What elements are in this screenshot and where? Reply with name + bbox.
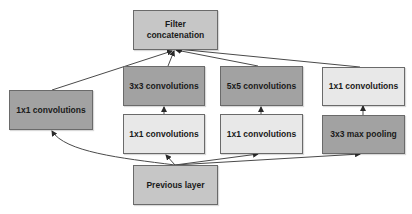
edge-prev-to-maxpool	[175, 154, 360, 165]
conv-1x1-reduce-5x5-node: 1x1 convolutions	[220, 114, 303, 154]
conv-1x1-reduce-5x5-label: 1x1 convolutions	[227, 129, 296, 140]
previous-layer-label: Previous layer	[146, 180, 204, 191]
conv-1x1-left-node: 1x1 convolutions	[9, 90, 93, 130]
conv-3x3-label: 3x3 convolutions	[129, 81, 198, 92]
edge-prev-to-1x1-reduce-3x3	[166, 155, 175, 165]
filter-concatenation-node: Filter concatenation	[133, 10, 218, 50]
edge-1x1-proj-to-concat	[177, 49, 360, 67]
maxpool-3x3-label: 3x3 max pooling	[330, 129, 397, 140]
edge-prev-to-1x1-reduce-5x5	[175, 154, 258, 165]
conv-1x1-reduce-3x3-label: 1x1 convolutions	[129, 129, 198, 140]
previous-layer-node: Previous layer	[133, 165, 218, 205]
conv-5x5-label: 5x5 convolutions	[227, 81, 296, 92]
conv-1x1-reduce-3x3-node: 1x1 convolutions	[123, 114, 205, 154]
conv-3x3-node: 3x3 convolutions	[123, 66, 205, 106]
conv-1x1-left-label: 1x1 convolutions	[16, 105, 85, 116]
conv-5x5-node: 5x5 convolutions	[220, 66, 303, 106]
maxpool-3x3-node: 3x3 max pooling	[322, 115, 405, 154]
edge-5x5-to-concat	[176, 50, 258, 66]
filter-concatenation-label: Filter concatenation	[147, 19, 205, 41]
conv-1x1-pool-proj-node: 1x1 convolutions	[322, 67, 405, 106]
inception-module-diagram: Filter concatenation 1x1 convolutions 3x…	[0, 0, 412, 214]
edge-3x3-to-concat	[168, 51, 174, 66]
conv-1x1-pool-proj-label: 1x1 convolutions	[329, 81, 398, 92]
